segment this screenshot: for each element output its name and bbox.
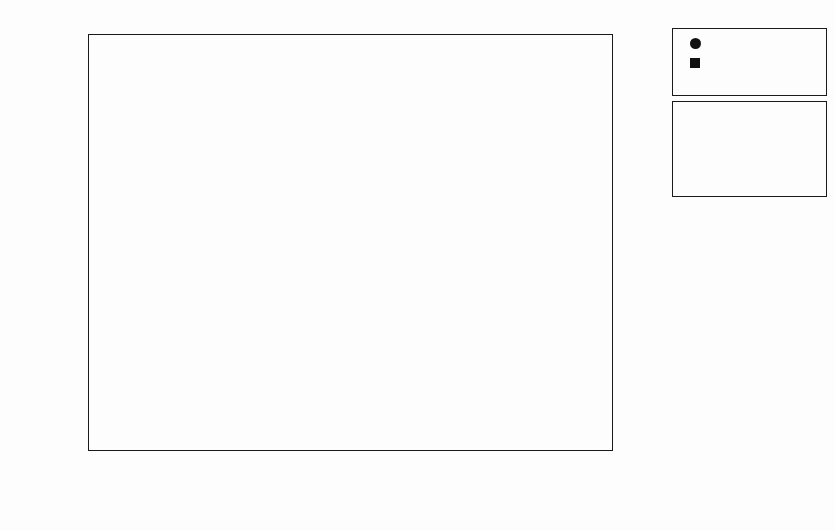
factor-table-header (673, 107, 826, 124)
plot-area (88, 34, 613, 451)
normal-probability-plot (0, 0, 835, 531)
legend-factor-table (672, 101, 827, 197)
legend-entry-significant (673, 53, 826, 73)
circle-marker-icon (685, 38, 705, 49)
legend-entry-not-significant (673, 33, 826, 53)
square-marker-icon (685, 58, 705, 68)
legend-effect-type (672, 28, 827, 96)
plot-canvas (89, 35, 611, 449)
